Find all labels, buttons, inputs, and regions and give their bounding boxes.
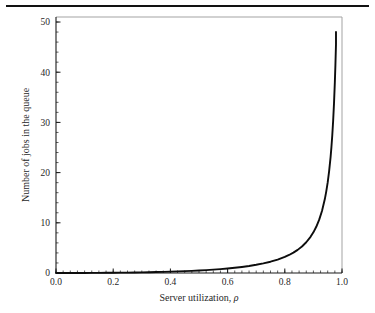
y-axis-major-ticks — [56, 22, 61, 273]
y-tick-label: 40 — [41, 68, 51, 78]
data-series-group — [56, 32, 336, 273]
x-tick-label: 0.2 — [107, 277, 119, 287]
svg-text:Server utilization, ρ: Server utilization, ρ — [160, 292, 239, 303]
x-axis-tick-labels: 0.00.20.40.60.81.0 — [50, 277, 348, 287]
x-tick-label: 0.6 — [222, 277, 234, 287]
svg-text:Number of jobs in the queue: Number of jobs in the queue — [20, 87, 31, 202]
y-tick-label: 0 — [45, 268, 50, 278]
x-tick-label: 0.8 — [279, 277, 291, 287]
figure-container: 0.00.20.40.60.81.0 01020304050 Server ut… — [0, 0, 375, 313]
x-tick-label: 0.0 — [50, 277, 62, 287]
x-axis-title: Server utilization, ρ — [160, 292, 239, 303]
queue-length-chart: 0.00.20.40.60.81.0 01020304050 Server ut… — [0, 0, 375, 313]
y-tick-label: 50 — [41, 17, 51, 27]
x-tick-label: 0.4 — [164, 277, 176, 287]
y-axis-title: Number of jobs in the queue — [20, 87, 31, 202]
chart-area: 0.00.20.40.60.81.0 01020304050 Server ut… — [0, 0, 375, 313]
y-tick-label: 20 — [41, 168, 51, 178]
y-axis-tick-labels: 01020304050 — [41, 17, 51, 278]
plot-frame — [56, 17, 342, 273]
x-tick-label: 1.0 — [336, 277, 348, 287]
y-tick-label: 10 — [41, 218, 51, 228]
series-line — [56, 32, 336, 273]
y-tick-label: 30 — [41, 118, 51, 128]
